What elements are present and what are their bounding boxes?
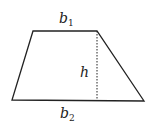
trapezoid-diagram: b1 h b2 <box>0 0 153 123</box>
label-b1: b1 <box>59 10 74 28</box>
label-h: h <box>80 64 89 80</box>
label-b2: b2 <box>60 105 75 123</box>
trapezoid-shape <box>12 31 144 101</box>
